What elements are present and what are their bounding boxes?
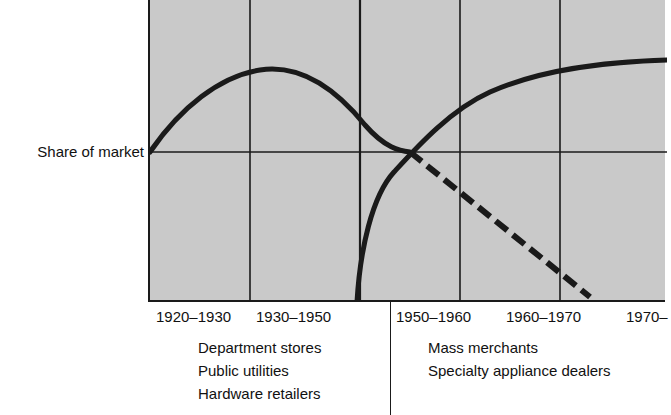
- caption-divider: [390, 302, 391, 415]
- declining-curve-solid: [150, 69, 410, 152]
- caption-left-line-2: Public utilities: [198, 359, 321, 382]
- period-label-1920-1930: 1920–1930: [156, 306, 231, 328]
- caption-right-line-2: Specialty appliance dealers: [428, 359, 611, 382]
- period-label-1970-onward: 1970–: [626, 306, 668, 328]
- period-label-1930-1950: 1930–1950: [256, 306, 331, 328]
- y-axis-label: Share of market: [6, 142, 144, 161]
- period-label-1950-1960: 1950–1960: [396, 306, 471, 328]
- caption-left-line-1: Department stores: [198, 336, 321, 359]
- x-axis-period-labels: 1920–1930 1930–1950 1950–1960 1960–1970 …: [148, 306, 671, 332]
- declining-curve-dashed-projection: [410, 152, 590, 297]
- period-label-1960-1970: 1960–1970: [506, 306, 581, 328]
- caption-left-line-3: Hardware retailers: [198, 382, 321, 405]
- chart-canvas: [150, 0, 667, 302]
- caption-right-line-1: Mass merchants: [428, 336, 611, 359]
- rising-curve: [357, 60, 667, 302]
- caption-group-left: Department stores Public utilities Hardw…: [198, 336, 321, 405]
- chart-plot-area: [148, 0, 665, 302]
- caption-group-right: Mass merchants Specialty appliance deale…: [428, 336, 611, 382]
